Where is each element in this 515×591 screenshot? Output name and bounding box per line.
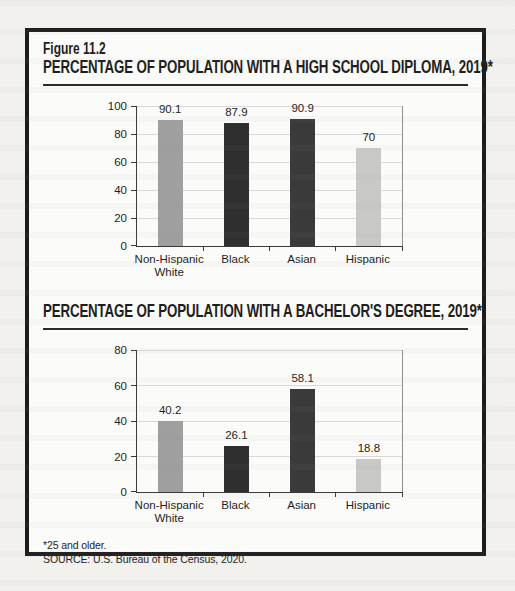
bar-value-label: 18.8 <box>339 442 399 455</box>
plot-area: 02040608040.226.158.118.8 <box>136 350 403 493</box>
title-rule-1 <box>43 84 468 86</box>
bar <box>224 123 249 246</box>
bar <box>356 459 381 492</box>
bar-value-label: 58.1 <box>273 372 333 385</box>
title-rule-2 <box>43 328 468 330</box>
y-axis-tick-label: 20 <box>91 211 127 225</box>
x-axis-labels: Non-Hispanic WhiteBlackAsianHispanic <box>136 253 401 285</box>
bar-value-label: 90.1 <box>140 103 200 116</box>
bar <box>290 389 315 492</box>
y-axis-tick-label: 100 <box>91 99 127 113</box>
bar-value-label: 26.1 <box>206 429 266 442</box>
y-axis-tick-label: 20 <box>91 450 127 464</box>
bar-value-label: 40.2 <box>140 404 200 417</box>
x-axis-tick <box>335 246 336 251</box>
x-axis-tick <box>402 492 403 497</box>
chart1-title: PERCENTAGE OF POPULATION WITH A HIGH SCH… <box>43 57 341 77</box>
bar <box>356 148 381 246</box>
y-axis-tick <box>131 245 137 246</box>
bar <box>158 120 183 246</box>
y-axis-tick-label: 40 <box>91 183 127 197</box>
y-axis-tick <box>131 134 137 135</box>
y-axis-tick <box>131 421 137 422</box>
y-axis-tick <box>131 350 137 351</box>
y-axis-tick-label: 60 <box>91 379 127 393</box>
gridline <box>137 350 402 351</box>
y-axis-tick-label: 60 <box>91 155 127 169</box>
bar-value-label: 87.9 <box>206 106 266 119</box>
gridline <box>137 385 402 386</box>
bar <box>224 446 249 492</box>
y-axis-tick <box>131 162 137 163</box>
x-axis-tick <box>203 246 204 251</box>
x-axis-tick <box>203 492 204 497</box>
x-category-label: Hispanic <box>320 253 416 266</box>
x-axis-tick <box>402 246 403 251</box>
bachelors-degree-chart: 02040608040.226.158.118.8Non-Hispanic Wh… <box>136 350 401 531</box>
footnote: *25 and older. <box>43 539 468 553</box>
source-note: SOURCE: U.S. Bureau of the Census, 2020. <box>43 553 468 567</box>
x-axis-tick <box>269 492 270 497</box>
y-axis-tick-label: 0 <box>91 239 127 253</box>
plot-area: 02040608010090.187.990.970 <box>136 106 403 247</box>
y-axis-tick-label: 40 <box>91 414 127 428</box>
x-category-label: Hispanic <box>320 499 416 512</box>
high-school-diploma-chart: 02040608010090.187.990.970Non-Hispanic W… <box>136 106 401 285</box>
x-axis-tick <box>269 246 270 251</box>
x-axis-labels: Non-Hispanic WhiteBlackAsianHispanic <box>136 499 401 531</box>
y-axis-tick <box>131 190 137 191</box>
bar <box>158 421 183 492</box>
y-axis-tick <box>131 491 137 492</box>
footnote-block: *25 and older. SOURCE: U.S. Bureau of th… <box>43 539 468 566</box>
figure-label: Figure 11.2 <box>43 40 362 57</box>
figure-box: Figure 11.2 PERCENTAGE OF POPULATION WIT… <box>25 28 486 556</box>
y-axis-tick-label: 0 <box>91 485 127 499</box>
chart2-title: PERCENTAGE OF POPULATION WITH A BACHELOR… <box>43 301 341 321</box>
y-axis-tick <box>131 385 137 386</box>
bar-value-label: 90.9 <box>273 102 333 115</box>
y-axis-tick-label: 80 <box>91 127 127 141</box>
x-axis-tick <box>335 492 336 497</box>
bar <box>290 119 315 246</box>
y-axis-tick <box>131 106 137 107</box>
y-axis-tick <box>131 456 137 457</box>
y-axis-tick <box>131 218 137 219</box>
y-axis-tick-label: 80 <box>91 343 127 357</box>
bar-value-label: 70 <box>339 131 399 144</box>
